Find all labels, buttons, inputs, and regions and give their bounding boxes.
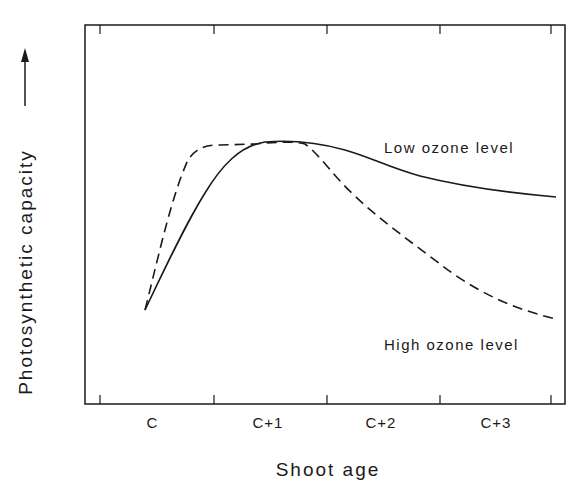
x-tick-label-c2: C+2: [366, 414, 397, 431]
x-tick-label-c3: C+3: [481, 414, 512, 431]
y-axis-title: Photosynthetic capacity: [15, 149, 36, 395]
top-ticks: [100, 25, 551, 34]
series-low-ozone-line: [145, 141, 556, 310]
annotation-high-ozone: High ozone level: [384, 336, 519, 353]
series-high-ozone-line: [145, 142, 556, 319]
x-axis-title: Shoot age: [276, 459, 381, 480]
x-tick-label-c: C: [147, 414, 158, 431]
x-tick-label-c1: C+1: [253, 414, 284, 431]
y-axis-arrow-icon: [21, 48, 29, 106]
bottom-ticks: [100, 395, 551, 404]
line-chart: C C+1 C+2 C+3 Shoot age Photosynthetic c…: [0, 0, 580, 497]
annotation-low-ozone: Low ozone level: [384, 139, 514, 156]
